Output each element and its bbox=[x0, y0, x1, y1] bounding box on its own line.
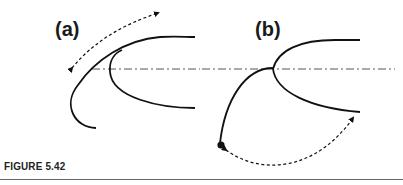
double-arrow-a bbox=[72, 13, 158, 68]
upper-curve-b bbox=[273, 40, 360, 69]
panel-label-a: (a) bbox=[55, 18, 79, 41]
inner-curve-a bbox=[110, 50, 195, 108]
panel-b bbox=[202, 40, 395, 165]
trajectory-curve-b bbox=[220, 68, 273, 143]
double-arrow-b bbox=[226, 118, 353, 165]
panel-a bbox=[71, 13, 200, 128]
panel-label-b: (b) bbox=[255, 18, 281, 41]
particle-dot-b bbox=[217, 141, 224, 148]
caption-rule bbox=[0, 179, 403, 180]
figure-caption: FIGURE 5.42 bbox=[4, 160, 65, 172]
lower-curve-b bbox=[273, 69, 360, 112]
